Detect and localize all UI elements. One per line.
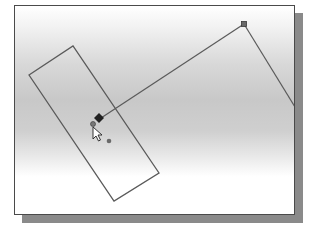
sketch-canvas[interactable] <box>15 6 294 214</box>
sketch-line-segment-2[interactable] <box>244 24 294 107</box>
endpoint-marker[interactable] <box>242 22 247 27</box>
sketch-viewport[interactable] <box>14 5 295 215</box>
sketch-line-segment[interactable] <box>101 24 244 118</box>
pointer-arrow-icon <box>93 127 102 141</box>
arrow-cursor-icon <box>91 113 105 141</box>
snap-circle-icon <box>91 122 96 127</box>
center-point-marker[interactable] <box>107 139 112 144</box>
diamond-snap-icon <box>94 113 104 123</box>
